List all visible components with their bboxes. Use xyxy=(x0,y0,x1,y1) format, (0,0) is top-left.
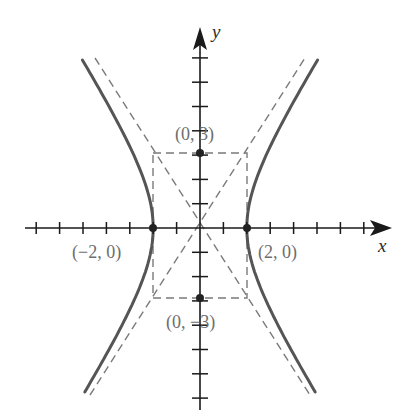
x-axis-label: x xyxy=(377,235,387,256)
point-0-neg3 xyxy=(196,294,204,302)
point-label-0-neg3: (0, −3) xyxy=(166,312,215,333)
point-2-0 xyxy=(243,224,251,232)
left-branch xyxy=(82,60,153,392)
hyperbola-figure: x y (0, 3) (−2, 0) (2, 0) (0, −3) xyxy=(0,0,414,417)
point-neg2-0 xyxy=(149,224,157,232)
asymptote-negative-slope xyxy=(95,58,310,395)
point-label-neg2-0: (−2, 0) xyxy=(72,242,121,263)
point-label-0-3: (0, 3) xyxy=(175,124,214,145)
point-label-2-0: (2, 0) xyxy=(258,242,297,263)
point-0-3 xyxy=(196,149,204,157)
y-axis-label: y xyxy=(210,21,221,42)
asymptote-positive-slope xyxy=(90,58,305,395)
right-branch xyxy=(247,60,318,392)
